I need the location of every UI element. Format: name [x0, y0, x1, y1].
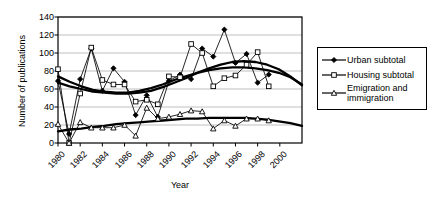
- data-point-open-square: [167, 74, 172, 79]
- chart-legend: Urban subtotalHousing subtotalEmigration…: [317, 47, 427, 110]
- data-point-open-square: [144, 98, 149, 103]
- marker-triangle: [233, 123, 238, 128]
- data-point-open-square: [200, 51, 205, 56]
- legend-label-wrap: Emigration andimmigration: [347, 83, 408, 103]
- marker-diamond: [133, 113, 138, 118]
- chart-figure: Number of publications 02040608010012014…: [0, 0, 433, 201]
- data-point-open-square: [100, 78, 105, 83]
- legend-marker-open-triangle-icon: [321, 87, 347, 99]
- data-point-open-triangle: [233, 123, 238, 128]
- legend-item: Urban subtotal: [321, 53, 423, 66]
- legend-label-line2: immigration: [347, 93, 408, 103]
- marker-triangle: [55, 121, 60, 126]
- marker-square: [222, 76, 227, 81]
- data-point-open-square: [255, 50, 260, 55]
- data-point-open-square: [89, 45, 94, 50]
- marker-square: [56, 67, 61, 72]
- marker-square: [122, 82, 127, 87]
- legend-item: Emigration andimmigration: [321, 83, 423, 103]
- data-point-open-triangle: [55, 121, 60, 126]
- data-point-filled-diamond: [222, 27, 227, 32]
- legend-label: Emigration and: [347, 83, 408, 93]
- data-point-open-square: [211, 84, 216, 89]
- data-point-open-square: [332, 72, 337, 77]
- legend-marker-open-square-icon: [321, 69, 347, 81]
- marker-square: [89, 45, 94, 50]
- data-point-open-square: [233, 73, 238, 78]
- legend-label: Housing subtotal: [347, 70, 414, 80]
- data-point-open-square: [122, 82, 127, 87]
- marker-triangle: [211, 126, 216, 131]
- marker-diamond: [331, 57, 336, 62]
- legend-label: Urban subtotal: [347, 55, 406, 65]
- marker-square: [178, 75, 183, 80]
- data-point-open-square: [244, 62, 249, 67]
- marker-square: [244, 62, 249, 67]
- marker-square: [332, 72, 337, 77]
- data-point-open-square: [133, 99, 138, 104]
- data-point-filled-diamond: [133, 113, 138, 118]
- data-point-open-triangle: [211, 126, 216, 131]
- marker-square: [266, 84, 271, 89]
- marker-square: [156, 102, 161, 107]
- marker-square: [100, 78, 105, 83]
- data-point-filled-diamond: [331, 57, 336, 62]
- data-point-open-square: [266, 84, 271, 89]
- marker-square: [133, 99, 138, 104]
- data-point-open-square: [56, 67, 61, 72]
- data-point-filled-diamond: [78, 77, 83, 82]
- data-point-open-square: [156, 102, 161, 107]
- marker-triangle: [144, 105, 149, 110]
- marker-diamond: [78, 77, 83, 82]
- marker-square: [255, 50, 260, 55]
- marker-square: [144, 98, 149, 103]
- marker-square: [211, 84, 216, 89]
- data-point-open-triangle: [144, 105, 149, 110]
- data-point-open-square: [78, 91, 83, 96]
- marker-square: [111, 82, 116, 87]
- data-point-open-square: [111, 82, 116, 87]
- data-point-open-square: [178, 75, 183, 80]
- marker-triangle: [77, 120, 82, 125]
- marker-square: [233, 73, 238, 78]
- data-point-open-square: [222, 76, 227, 81]
- data-point-open-square: [189, 42, 194, 47]
- marker-diamond: [222, 27, 227, 32]
- marker-square: [189, 42, 194, 47]
- marker-square: [200, 51, 205, 56]
- legend-marker-filled-diamond-icon: [321, 54, 347, 66]
- data-point-open-triangle: [77, 120, 82, 125]
- marker-square: [167, 74, 172, 79]
- marker-square: [78, 91, 83, 96]
- legend-item: Housing subtotal: [321, 68, 423, 81]
